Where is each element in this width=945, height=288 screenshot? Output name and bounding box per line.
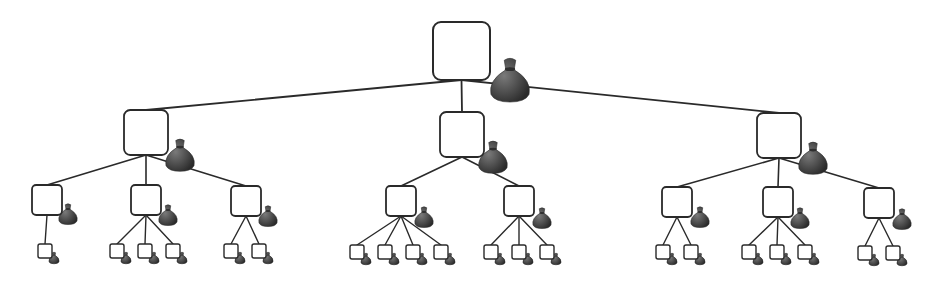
tree-node-level-3	[378, 245, 392, 259]
edge-line	[47, 155, 146, 185]
money-bag-icon	[799, 142, 828, 174]
edge-line	[663, 217, 677, 245]
edge-line	[749, 217, 778, 245]
money-bags	[49, 58, 911, 265]
edge-line	[146, 155, 246, 186]
tree-node-level-3	[886, 246, 900, 260]
edge-line	[879, 218, 893, 246]
tree-node-level-1	[757, 113, 801, 158]
tree-node-level-3	[540, 245, 554, 259]
tree-node-level-1	[124, 110, 168, 155]
tree-node-level-2	[131, 185, 161, 215]
tree-node-level-3	[684, 245, 698, 259]
edge-line	[246, 216, 259, 244]
edge-line	[677, 158, 779, 187]
edge-line	[777, 217, 778, 245]
money-bag-icon	[533, 208, 551, 229]
tree-node-level-2	[662, 187, 692, 217]
tree-node-level-2	[864, 188, 894, 218]
tree-node-level-2	[231, 186, 261, 216]
edge-line	[145, 215, 146, 244]
tree-node-level-3	[252, 244, 266, 258]
tree-diagram	[0, 0, 945, 288]
edge-line	[778, 158, 779, 187]
money-bag-icon	[491, 58, 530, 102]
edge-line	[865, 218, 879, 246]
edge-line	[462, 80, 463, 112]
tree-node-level-3	[110, 244, 124, 258]
edge-line	[385, 216, 401, 245]
tree-node-level-3	[512, 245, 526, 259]
tree-node-level-3	[166, 244, 180, 258]
tree-node-level-3	[350, 245, 364, 259]
tree-node-level-2	[763, 187, 793, 217]
tree-node-level-3	[38, 244, 52, 258]
tree-node-level-3	[858, 246, 872, 260]
tree-node-level-2	[32, 185, 62, 215]
edge-line	[401, 157, 462, 186]
tree-node-level-3	[656, 245, 670, 259]
tree-node-level-0	[433, 22, 490, 80]
money-bag-icon	[415, 207, 433, 228]
edge-line	[491, 216, 519, 245]
tree-node-level-3	[406, 245, 420, 259]
money-bag-icon	[691, 207, 709, 228]
tree-node-level-3	[434, 245, 448, 259]
tree-node-level-3	[770, 245, 784, 259]
tree-node-level-2	[504, 186, 534, 216]
edge-line	[357, 216, 401, 245]
edge-line	[779, 158, 879, 188]
edge-line	[146, 80, 462, 110]
tree-node-level-3	[224, 244, 238, 258]
tree-node-level-3	[798, 245, 812, 259]
tree-node-level-3	[484, 245, 498, 259]
tree-node-level-3	[742, 245, 756, 259]
money-bag-icon	[166, 139, 195, 171]
edge-line	[677, 217, 691, 245]
tree-node-level-2	[386, 186, 416, 216]
edge-line	[45, 215, 47, 244]
edge-line	[231, 216, 246, 244]
tree-node-level-1	[440, 112, 484, 157]
edge-line	[117, 215, 146, 244]
tree-node-level-3	[138, 244, 152, 258]
money-bag-icon	[893, 209, 911, 230]
